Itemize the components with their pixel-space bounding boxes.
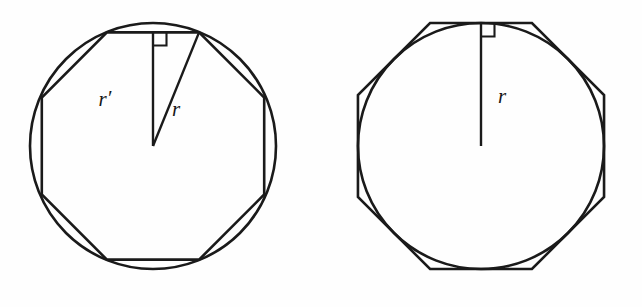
left-right-angle-icon [153, 32, 167, 45]
figure-panel: r′ r r [0, 0, 642, 307]
right-figure: r [321, 0, 642, 307]
right-right-angle-icon [481, 23, 495, 37]
left-figure: r′ r [0, 0, 321, 307]
left-apothem-label: r′ [99, 86, 112, 111]
right-radius-label: r [498, 84, 507, 108]
left-circumradius-line [153, 32, 199, 146]
left-radius-label: r [172, 97, 181, 121]
